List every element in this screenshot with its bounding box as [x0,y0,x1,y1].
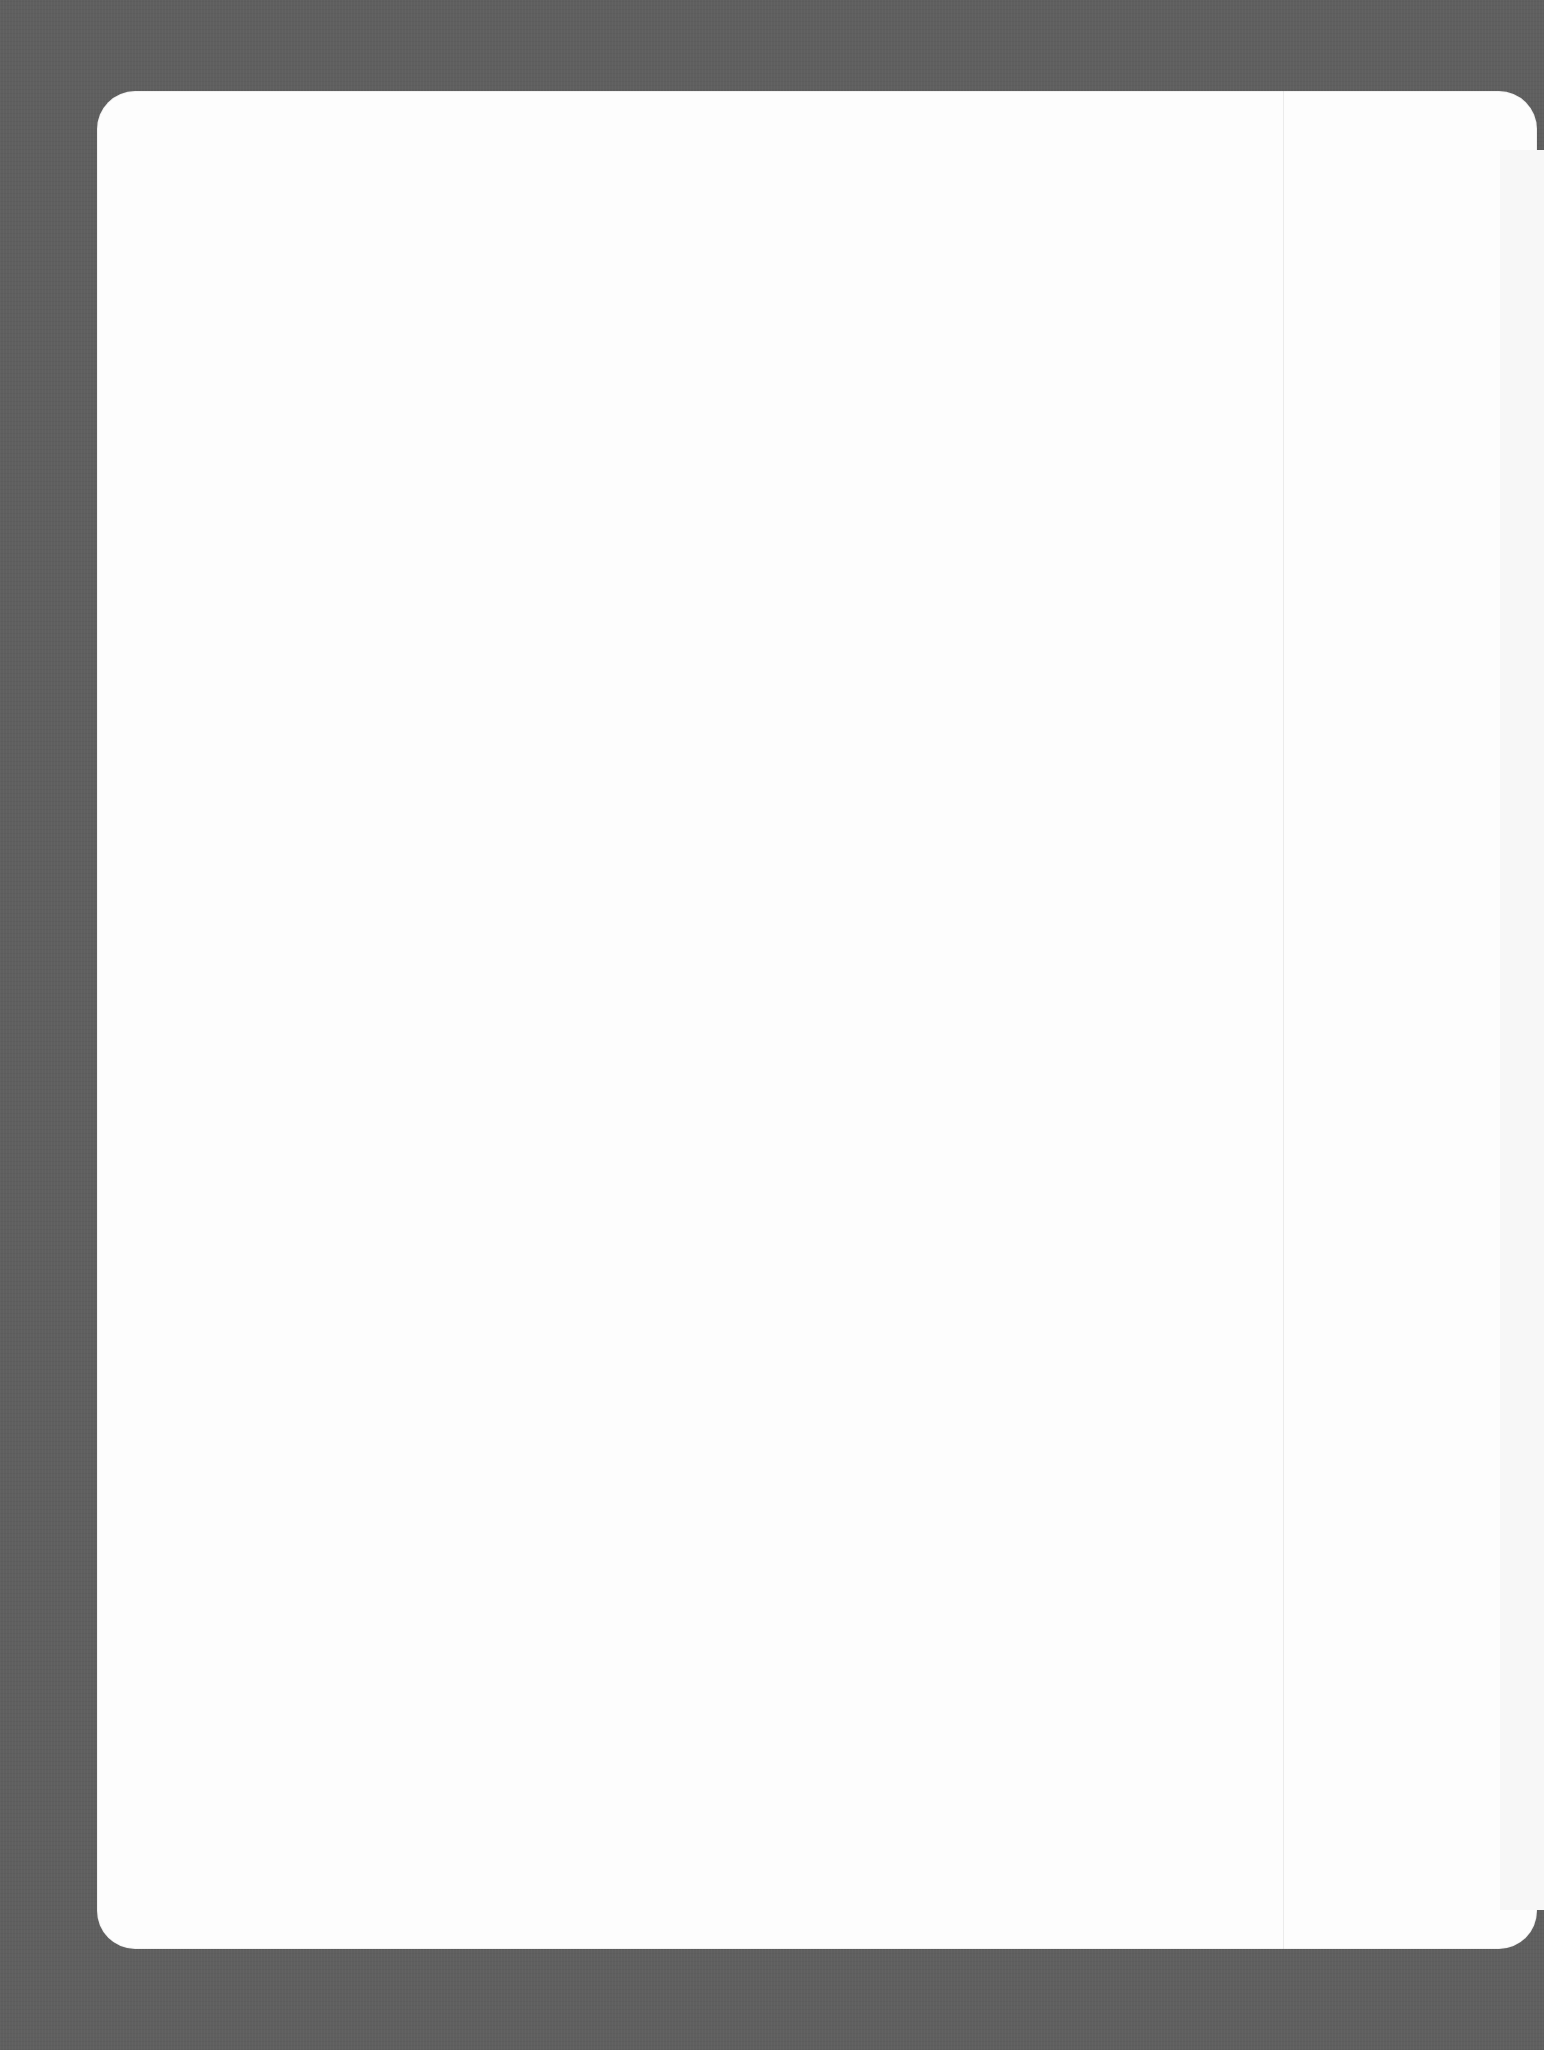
writing-panel [97,91,1537,1949]
scan-edge [1500,150,1544,1910]
fold-line [1283,91,1284,1949]
bordered-page [0,0,1544,2050]
